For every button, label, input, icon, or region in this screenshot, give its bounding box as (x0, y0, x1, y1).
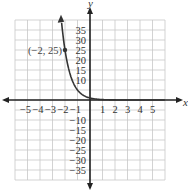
x-tick-label: −5 (20, 104, 31, 115)
x-tick-label: 3 (125, 104, 130, 115)
y-tick-label: 10 (76, 75, 87, 86)
x-tick-labels: −5−4−3−2−112345 (20, 104, 155, 115)
x-tick-label: 1 (100, 104, 105, 115)
x-axis-right-arrow-icon (176, 97, 183, 103)
x-tick-label: −1 (70, 104, 81, 115)
point-marker (63, 48, 67, 52)
exponential-graph: x y −5−4−3−2−112345 353025201510−10−15−2… (0, 0, 188, 190)
x-axis-label: x (182, 96, 188, 108)
x-tick-label: −2 (57, 104, 68, 115)
curve-arrow-icon (58, 15, 65, 23)
x-tick-label: 2 (112, 104, 117, 115)
x-tick-label: −4 (32, 104, 44, 115)
y-axis-label: y (87, 0, 93, 9)
x-axis-left-arrow-icon (2, 97, 9, 103)
point-label: (−2, 25) (28, 45, 62, 57)
y-axis-down-arrow-icon (87, 183, 93, 190)
x-tick-label: 5 (150, 104, 155, 115)
x-tick-label: 4 (137, 104, 143, 115)
x-tick-label: −3 (45, 104, 56, 115)
y-tick-label: −35 (70, 165, 86, 176)
